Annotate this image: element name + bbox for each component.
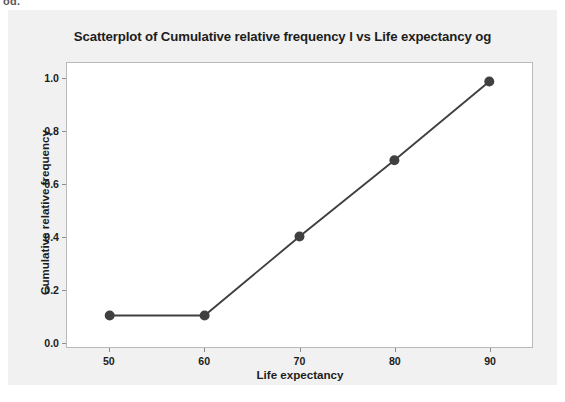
x-tick-mark xyxy=(204,348,205,352)
scatter-line-series xyxy=(67,63,532,347)
x-tick-label: 80 xyxy=(375,355,415,367)
y-tick-mark xyxy=(62,237,66,238)
x-tick-label: 90 xyxy=(470,355,510,367)
x-tick-mark xyxy=(300,348,301,352)
x-tick-label: 70 xyxy=(280,355,320,367)
chart-title: Scatterplot of Cumulative relative frequ… xyxy=(8,29,557,44)
y-tick-label: 0.8 xyxy=(29,125,59,137)
cropped-text-fragment: og. xyxy=(3,0,20,5)
x-tick-label: 50 xyxy=(89,355,129,367)
data-point-marker xyxy=(389,155,399,165)
y-tick-mark xyxy=(62,343,66,344)
plot-area xyxy=(66,62,533,348)
x-tick-mark xyxy=(109,348,110,352)
y-tick-mark xyxy=(62,290,66,291)
data-point-marker xyxy=(484,76,494,86)
series-line xyxy=(110,81,490,315)
y-tick-mark xyxy=(62,131,66,132)
y-tick-label: 1.0 xyxy=(29,72,59,84)
y-tick-label: 0.2 xyxy=(29,284,59,296)
data-point-marker xyxy=(105,310,115,320)
y-tick-label: 0.0 xyxy=(29,337,59,349)
y-tick-label: 0.4 xyxy=(29,231,59,243)
x-tick-mark xyxy=(395,348,396,352)
data-point-marker xyxy=(200,310,210,320)
y-tick-mark xyxy=(62,78,66,79)
y-tick-mark xyxy=(62,184,66,185)
y-tick-label: 0.6 xyxy=(29,178,59,190)
x-tick-label: 60 xyxy=(184,355,224,367)
x-tick-mark xyxy=(490,348,491,352)
data-point-marker xyxy=(295,232,305,242)
x-axis-title: Life expectancy xyxy=(66,368,534,381)
